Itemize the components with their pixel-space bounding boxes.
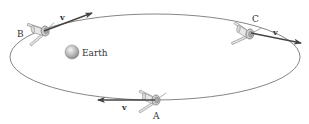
point-label-c: C bbox=[252, 14, 259, 24]
earth: Earth bbox=[65, 45, 108, 59]
point-label-b: B bbox=[17, 29, 24, 39]
point-label-a: A bbox=[152, 111, 160, 121]
earth-icon bbox=[65, 45, 79, 59]
velocity-label-c: v bbox=[272, 27, 278, 37]
velocity-arrow-b bbox=[44, 13, 92, 31]
satellite-c: C v bbox=[231, 14, 301, 48]
earth-label: Earth bbox=[82, 48, 108, 58]
velocity-label-b: v bbox=[59, 12, 65, 22]
satellite-icon bbox=[231, 22, 261, 49]
satellite-icon bbox=[139, 90, 166, 113]
orbit-diagram: Earth v B C v v A bbox=[0, 0, 309, 124]
velocity-label-a: v bbox=[121, 102, 127, 112]
satellite-a: v A bbox=[98, 90, 166, 121]
satellite-icon bbox=[27, 20, 57, 47]
satellite-b: v B bbox=[17, 12, 92, 46]
